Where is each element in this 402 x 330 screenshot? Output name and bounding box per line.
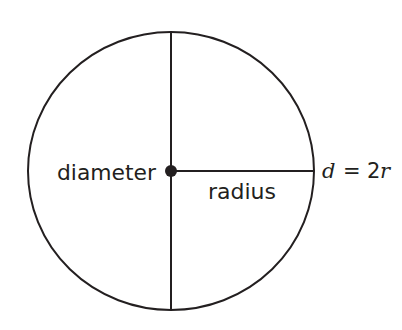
formula-d: d [322,159,335,183]
formula-equals: = [343,159,361,183]
formula-two: 2 [367,159,380,183]
radius-label: radius [208,179,276,204]
formula-r: r [380,159,392,183]
center-point [165,165,177,177]
circle-diagram: diameter radius d = 2 r [0,0,402,330]
diameter-label: diameter [57,160,157,185]
formula-label: d = 2 r [322,159,392,183]
